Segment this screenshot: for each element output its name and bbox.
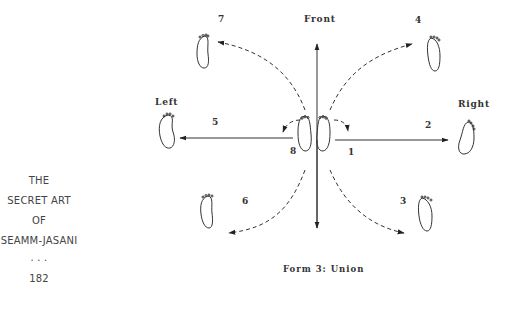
path-8 — [283, 120, 300, 132]
label-front: Front — [304, 14, 336, 24]
step-6: 6 — [242, 196, 248, 206]
path-1 — [334, 120, 348, 131]
step-8: 8 — [290, 146, 296, 156]
path-6 — [229, 170, 305, 233]
step-2: 2 — [425, 120, 431, 130]
path-7 — [218, 42, 305, 110]
step-3: 3 — [400, 196, 406, 206]
footprint-center-left — [298, 116, 311, 151]
footprint-left — [159, 113, 174, 148]
footprint-4 — [427, 36, 440, 71]
footprint-3 — [418, 196, 432, 231]
footprint-7 — [197, 34, 209, 68]
step-7: 7 — [218, 14, 224, 24]
step-5: 5 — [212, 117, 218, 127]
figure-caption: Form 3: Union — [283, 264, 364, 274]
footprint-center-right — [317, 116, 330, 151]
step-4: 4 — [415, 15, 421, 25]
path-4 — [330, 44, 412, 110]
label-left: Left — [155, 97, 178, 107]
path-3 — [330, 170, 404, 233]
book-page: THE SECRET ART OF SEAMM-JASANI . . . 182 — [0, 0, 518, 312]
footprint-right — [459, 120, 475, 154]
footprint-6 — [201, 194, 213, 228]
step-1: 1 — [348, 147, 354, 157]
footwork-diagram — [0, 0, 518, 312]
label-right: Right — [458, 99, 490, 109]
axes — [180, 44, 448, 228]
